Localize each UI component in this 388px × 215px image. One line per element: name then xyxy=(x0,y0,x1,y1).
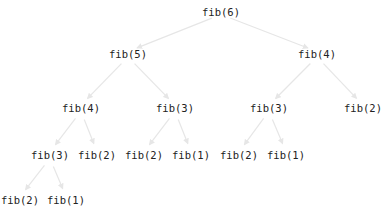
edge-n5-n12 xyxy=(272,119,282,143)
edge-n1-n3 xyxy=(88,64,122,99)
node-fib2: fib(2) xyxy=(78,150,116,161)
edge-n0-n1 xyxy=(137,18,212,48)
edge-n5-n11 xyxy=(244,118,263,144)
edge-n3-n7 xyxy=(56,118,76,144)
tree-edges xyxy=(0,0,388,215)
edge-n7-n13 xyxy=(26,165,45,189)
node-fib1: fib(1) xyxy=(47,195,85,206)
node-fib2: fib(2) xyxy=(1,195,39,206)
node-fib3: fib(3) xyxy=(156,103,194,114)
node-fib2: fib(2) xyxy=(344,103,382,114)
edge-n4-n9 xyxy=(150,118,170,144)
node-fib3: fib(3) xyxy=(31,150,69,161)
node-fib6-root: fib(6) xyxy=(202,7,240,18)
edge-n3-n8 xyxy=(84,119,94,143)
node-fib1: fib(1) xyxy=(267,150,305,161)
node-fib3: fib(3) xyxy=(250,103,288,114)
edge-n4-n10 xyxy=(178,119,188,143)
node-fib5: fib(5) xyxy=(109,49,147,60)
node-fib2: fib(2) xyxy=(125,150,163,161)
node-fib2: fib(2) xyxy=(220,150,258,161)
node-fib4-left: fib(4) xyxy=(62,103,100,114)
node-fib4-right: fib(4) xyxy=(298,49,336,60)
edge-n1-n4 xyxy=(135,64,169,99)
edge-n2-n6 xyxy=(323,64,356,99)
edge-n0-n2 xyxy=(230,18,308,48)
node-fib1: fib(1) xyxy=(172,150,210,161)
edge-n7-n14 xyxy=(53,166,62,188)
edge-n2-n5 xyxy=(276,63,311,98)
